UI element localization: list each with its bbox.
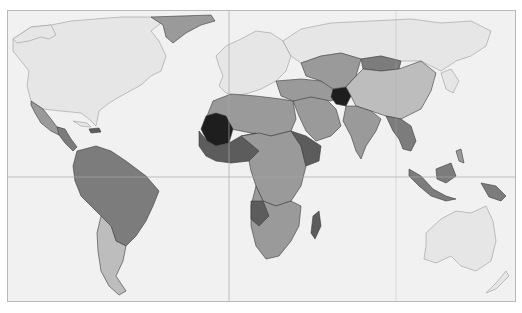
region-haiti[interactable] [89, 128, 101, 133]
world-map [8, 11, 516, 302]
map-frame [7, 10, 516, 302]
